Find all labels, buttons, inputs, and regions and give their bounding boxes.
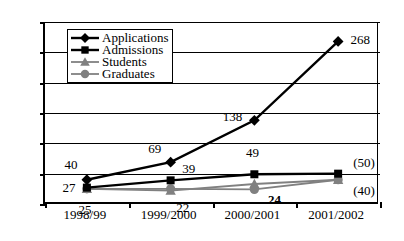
x-tick-label: 2001/2002 xyxy=(308,208,364,222)
x-tick-label: 1998/99 xyxy=(64,208,107,222)
legend-item-graduates[interactable]: Graduates xyxy=(70,68,169,80)
x-tick-label: 1999/2000 xyxy=(141,208,197,222)
value-label: 40 xyxy=(64,157,77,170)
x-tick-label: 2000/2001 xyxy=(225,208,281,222)
legend-label: Graduates xyxy=(100,68,155,80)
triangle-icon xyxy=(70,56,100,68)
value-label: (40) xyxy=(353,183,375,196)
chart-legend: ApplicationsAdmissionsStudentsGraduates xyxy=(67,29,173,83)
value-label: (50) xyxy=(353,155,375,168)
value-label: 69 xyxy=(148,142,161,155)
value-label: 49 xyxy=(246,146,259,159)
value-label: 138 xyxy=(223,110,243,123)
value-label: 268 xyxy=(350,33,370,46)
x-tick-mark xyxy=(380,202,382,208)
value-label: 27 xyxy=(62,180,75,193)
diamond-icon xyxy=(70,32,100,44)
line-chart: 300250200150100500 402725693922138492426… xyxy=(0,0,404,241)
circle-icon xyxy=(70,68,100,80)
value-label: 39 xyxy=(182,162,195,175)
value-label: 24 xyxy=(268,193,281,206)
square-icon xyxy=(70,44,100,56)
